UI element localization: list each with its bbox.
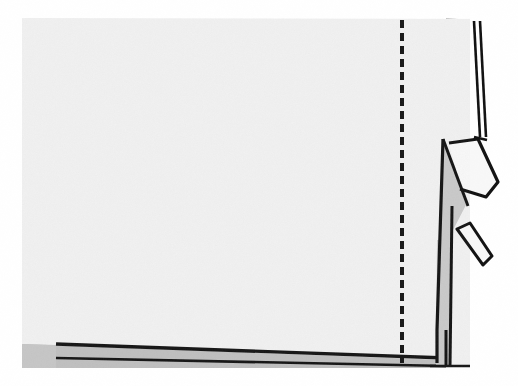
- page-grain-overlay: [0, 0, 518, 386]
- line-art-drawing: [0, 0, 518, 386]
- figure-container: Black and white scanned illustration of …: [0, 0, 518, 386]
